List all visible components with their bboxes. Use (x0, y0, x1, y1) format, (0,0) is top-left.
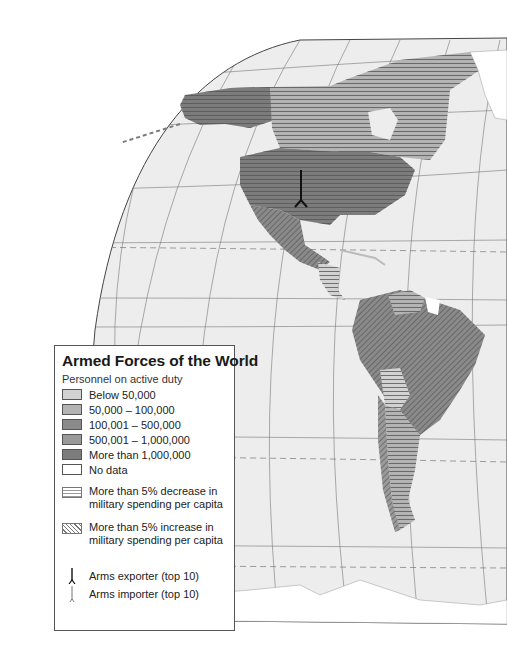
legend-title: Armed Forces of the World (62, 352, 227, 370)
legend: Armed Forces of the World Personnel on a… (54, 345, 235, 631)
swatch (62, 389, 82, 400)
legend-item-500001-1000000: 500,001 – 1,000,000 (62, 432, 227, 447)
legend-item-arms-exporter: Arms exporter (top 10) (62, 567, 227, 585)
legend-item-decrease: More than 5% decrease in military spendi… (62, 485, 227, 511)
swatch (62, 419, 82, 430)
swatch (62, 404, 82, 415)
horizontal-lines-swatch (62, 487, 82, 498)
legend-item-no-data: No data (62, 462, 227, 477)
legend-item-arms-importer: Arms importer (top 10) (62, 585, 227, 603)
arms-exporter-icon (62, 568, 82, 584)
legend-item-more-than-1000000: More than 1,000,000 (62, 447, 227, 462)
swatch (62, 449, 82, 460)
arms-importer-icon (62, 586, 82, 602)
legend-subtitle: Personnel on active duty (62, 373, 227, 385)
legend-item-increase: More than 5% increase in military spendi… (62, 521, 227, 547)
swatch (62, 434, 82, 445)
legend-item-100001-500000: 100,001 – 500,000 (62, 417, 227, 432)
diagonal-lines-swatch (62, 523, 82, 534)
legend-item-50000-100000: 50,000 – 100,000 (62, 402, 227, 417)
legend-item-below-50000: Below 50,000 (62, 387, 227, 402)
swatch (62, 464, 82, 475)
